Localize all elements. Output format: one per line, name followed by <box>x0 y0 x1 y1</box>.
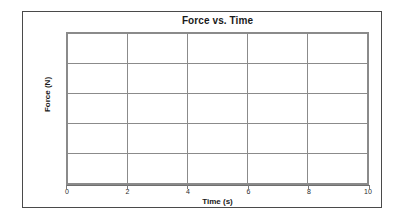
x-tick-label-8: 8 <box>307 188 311 195</box>
figure-frame: Force vs. Time <box>22 11 382 208</box>
x-tick-label-10: 10 <box>364 188 372 195</box>
x-tick-label-4: 4 <box>186 188 190 195</box>
plot-area <box>66 32 369 185</box>
x-axis-line <box>66 185 370 186</box>
x-tick-label-6: 6 <box>247 188 251 195</box>
chart-title: Force vs. Time <box>66 15 369 26</box>
x-axis-title: Time (s) <box>66 197 369 206</box>
x-tick-label-2: 2 <box>126 188 130 195</box>
x-tick-label-0: 0 <box>65 188 69 195</box>
gridlines <box>67 33 368 184</box>
y-axis-title: Force (N) <box>43 55 52 135</box>
